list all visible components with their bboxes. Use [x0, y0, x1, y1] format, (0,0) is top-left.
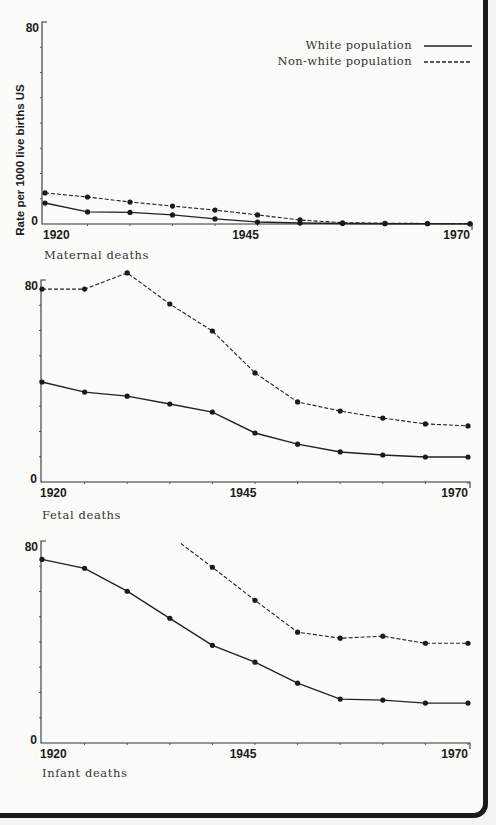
data-point: [465, 701, 470, 706]
data-point: [82, 566, 87, 571]
data-point: [210, 643, 215, 648]
x-tick-label-1920: 1920: [43, 228, 70, 242]
y-tick-label-80: 80: [25, 279, 39, 293]
data-point: [127, 199, 132, 204]
data-point: [255, 219, 260, 224]
data-point: [42, 200, 47, 205]
data-point: [82, 286, 87, 291]
data-point: [467, 221, 472, 226]
y-tick-label-80: 80: [26, 21, 40, 35]
data-point: [423, 641, 428, 646]
x-tick-label-1945: 1945: [230, 747, 257, 761]
data-point: [465, 641, 470, 646]
data-point: [85, 194, 90, 199]
data-point: [295, 442, 300, 447]
data-point: [252, 598, 257, 603]
data-point: [295, 399, 300, 404]
data-point: [338, 449, 343, 454]
infant-deaths-chart: 080192019451970: [25, 540, 471, 761]
fetal-deaths-chart: 080192019451970: [25, 270, 471, 500]
data-point: [167, 401, 172, 406]
data-point: [465, 423, 470, 428]
data-point: [39, 286, 44, 291]
data-point: [423, 454, 428, 459]
x-tick-label-1945: 1945: [232, 228, 259, 242]
data-point: [252, 660, 257, 665]
data-point: [39, 379, 44, 384]
data-point: [85, 209, 90, 214]
data-point: [423, 421, 428, 426]
y-tick-label-80: 80: [25, 540, 39, 554]
data-point: [338, 408, 343, 413]
data-point: [380, 416, 385, 421]
data-point: [170, 212, 175, 217]
fetal-deaths-caption: Fetal deaths: [42, 508, 121, 522]
data-point: [252, 430, 257, 435]
data-point: [338, 636, 343, 641]
charts-canvas: 080192019451970 080192019451970 08019201…: [0, 0, 496, 825]
data-point: [465, 454, 470, 459]
data-point: [167, 616, 172, 621]
maternal-deaths-caption: Maternal deaths: [44, 248, 149, 262]
x-tick-label-1945: 1945: [230, 486, 257, 500]
data-point: [338, 696, 343, 701]
x-tick-label-1920: 1920: [40, 486, 67, 500]
data-point: [380, 452, 385, 457]
data-point: [425, 221, 430, 226]
data-point: [380, 697, 385, 702]
data-point: [125, 589, 130, 594]
x-tick-label-1970: 1970: [443, 228, 470, 242]
white-series-line: [42, 559, 468, 703]
y-tick-label-0: 0: [31, 214, 38, 228]
data-point: [125, 270, 130, 275]
white-series-line: [42, 382, 468, 457]
nonwhite-series-line: [42, 273, 468, 426]
x-tick-label-1970: 1970: [441, 486, 468, 500]
axes: [41, 280, 470, 488]
data-point: [125, 394, 130, 399]
data-point: [295, 681, 300, 686]
nonwhite-series-line: [181, 544, 468, 644]
nonwhite-series-line: [45, 193, 470, 224]
axes: [41, 541, 470, 749]
data-point: [295, 630, 300, 635]
data-point: [252, 370, 257, 375]
data-point: [167, 301, 172, 306]
data-point: [212, 208, 217, 213]
y-tick-label-0: 0: [30, 733, 37, 747]
data-point: [382, 221, 387, 226]
data-point: [423, 701, 428, 706]
maternal-deaths-chart: 080192019451970: [26, 21, 473, 242]
data-point: [255, 212, 260, 217]
data-point: [297, 220, 302, 225]
data-point: [42, 190, 47, 195]
y-tick-label-0: 0: [30, 472, 37, 486]
data-point: [212, 216, 217, 221]
infant-deaths-caption: Infant deaths: [42, 766, 128, 780]
data-point: [82, 390, 87, 395]
x-tick-label-1920: 1920: [40, 747, 67, 761]
data-point: [380, 634, 385, 639]
data-point: [340, 221, 345, 226]
data-point: [210, 328, 215, 333]
data-point: [127, 210, 132, 215]
data-point: [39, 557, 44, 562]
data-point: [210, 409, 215, 414]
data-point: [210, 565, 215, 570]
x-tick-label-1970: 1970: [441, 747, 468, 761]
data-point: [170, 203, 175, 208]
